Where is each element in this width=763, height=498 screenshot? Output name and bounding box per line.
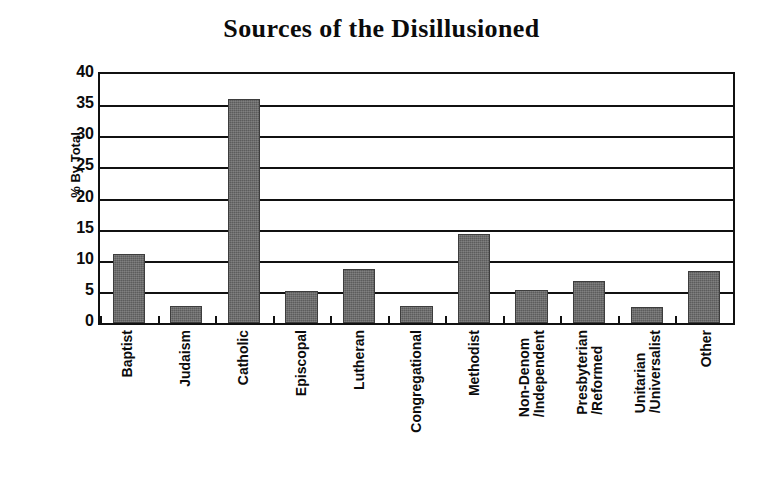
x-label-slot: Judaism: [156, 330, 214, 495]
x-label-slot: Methodist: [445, 330, 503, 495]
x-axis-category-label-line: /Reformed: [590, 330, 605, 415]
x-axis-category-label-line: Baptist: [118, 330, 134, 377]
x-axis-category-label-line: Unitarian: [632, 353, 648, 414]
x-axis-category-labels: BaptistJudaismCatholicEpiscopalLutheranC…: [98, 330, 735, 495]
x-axis-category-label: Episcopal: [301, 264, 316, 330]
x-axis-tick: [388, 316, 390, 323]
x-axis-category-label-line: Presbyterian: [574, 330, 590, 415]
x-axis-category-label-line: /Universalist: [648, 330, 663, 413]
bar-slot: [675, 74, 733, 323]
x-axis-tick: [100, 316, 102, 323]
x-label-slot: Congregational: [388, 330, 446, 495]
y-axis-tick-label: 30: [50, 126, 94, 142]
y-axis-tick-label: 10: [50, 251, 94, 267]
x-label-slot: Unitarian/Universalist: [619, 330, 677, 495]
x-axis-category-label: Judaism: [185, 273, 200, 330]
x-axis-category-label-line: Other: [698, 330, 714, 367]
x-axis-category-label-line: /Independent: [532, 330, 547, 417]
x-axis-tick: [215, 316, 217, 323]
y-axis-tick-label: 40: [50, 64, 94, 80]
x-axis-category-label: Congregational: [416, 227, 431, 330]
x-axis-category-label: Presbyterian/Reformed: [590, 245, 620, 330]
x-axis-category-label: Lutheran: [359, 270, 374, 330]
x-label-slot: Catholic: [214, 330, 272, 495]
x-axis-category-label: Baptist: [127, 283, 142, 330]
x-axis-category-label: Non-Denom/Independent: [532, 243, 562, 330]
x-axis-tick: [445, 316, 447, 323]
x-axis-tick: [503, 316, 505, 323]
x-axis-category-label-line: Episcopal: [292, 330, 308, 396]
y-axis-tick-label: 15: [50, 220, 94, 236]
x-axis-tick: [330, 316, 332, 323]
x-label-slot: Presbyterian/Reformed: [561, 330, 619, 495]
x-label-slot: Baptist: [98, 330, 156, 495]
x-label-slot: Non-Denom/Independent: [503, 330, 561, 495]
x-axis-category-label: Methodist: [474, 264, 489, 330]
x-axis-category-label: Unitarian/Universalist: [648, 247, 678, 330]
x-axis-tick: [273, 316, 275, 323]
chart-title: Sources of the Disillusioned: [0, 14, 763, 44]
x-axis-category-label-line: Congregational: [408, 330, 424, 433]
x-axis-category-label: Catholic: [243, 275, 258, 330]
x-label-slot: Episcopal: [272, 330, 330, 495]
x-axis-category-label-line: Lutheran: [350, 330, 366, 390]
y-axis-tick-label: 20: [50, 189, 94, 205]
x-label-slot: Lutheran: [330, 330, 388, 495]
bar-chart-figure: Sources of the Disillusioned % By Total …: [0, 0, 763, 498]
x-axis-category-label-line: Methodist: [466, 330, 482, 396]
x-axis-category-label-line: Judaism: [176, 330, 192, 387]
x-axis-tick: [158, 316, 160, 323]
x-axis-category-label-line: Non-Denom: [516, 338, 532, 417]
x-axis-category-label-line: Catholic: [234, 330, 250, 385]
x-axis-category-label: Other: [706, 293, 721, 330]
y-axis-tick-labels: 4035302520151050: [50, 72, 94, 325]
y-axis-tick-label: 5: [50, 282, 94, 298]
x-label-slot: Other: [677, 330, 735, 495]
y-axis-tick-label: 0: [50, 313, 94, 329]
y-axis-tick-label: 35: [50, 95, 94, 111]
y-axis-tick-label: 25: [50, 157, 94, 173]
